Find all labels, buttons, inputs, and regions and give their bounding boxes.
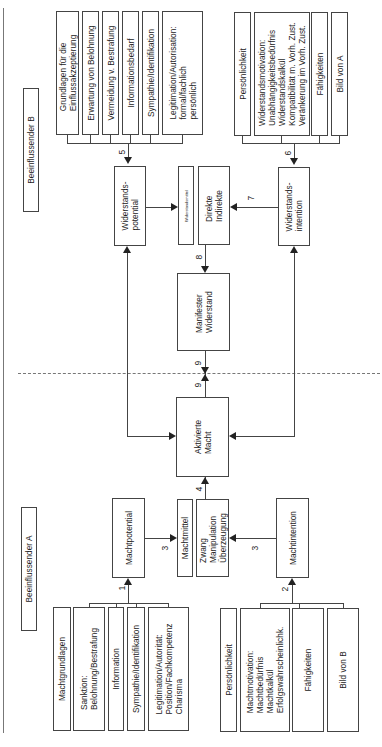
section-label-b-text: Beeinflussender B	[26, 116, 36, 183]
widerstandsmittel-box: Direkte Indirekte	[198, 166, 230, 245]
a-grundlagen-text-0: Machtgrundlagen	[57, 637, 67, 701]
b-grundlagen-box-4: Sympathie/Identifikation	[142, 11, 159, 135]
b-intention-text-3: Bild von A	[335, 56, 345, 93]
connector	[236, 538, 276, 539]
divider-dashed-line	[18, 373, 380, 374]
machtintention-text: Machtintention	[288, 511, 298, 565]
b-intention-box-2: Fähigkeiten	[311, 12, 328, 136]
connector	[110, 135, 111, 143]
connector	[260, 603, 344, 604]
widerstandsmittel-label-box: Widerstandsmittel	[178, 166, 194, 245]
edge-label-4: 4	[194, 484, 204, 494]
widerstandsintention-box: Widerstands- intention	[278, 167, 310, 246]
arrow-down-icon	[124, 157, 132, 164]
b-intention-box-1: Widerstandsmotivation: Unabhängigkeitsbe…	[254, 12, 310, 136]
widerstandsintention-text: Widerstands- intention	[284, 182, 304, 231]
connector	[127, 436, 170, 437]
a-grundlagen-text-1: Sanktion: Belohnung/Bestrafung	[79, 628, 99, 710]
arrow-up-icon	[123, 246, 131, 253]
b-grundlagen-box-0: Grundlagen für die Einflussakzeptierung	[56, 11, 79, 135]
connector	[67, 135, 68, 143]
connector	[319, 136, 320, 143]
a-grundlagen-box-2: Information	[108, 607, 124, 731]
b-intention-text-2: Fähigkeiten	[315, 53, 325, 96]
a-intention-text-0: Persönlichkeit	[224, 644, 234, 696]
arrow-left-icon	[229, 534, 236, 542]
machtpotential-text: Machtpotential	[124, 511, 134, 565]
arrow-right-icon	[170, 534, 177, 542]
edge-label-2: 2	[280, 584, 290, 594]
b-intention-text-1: Widerstandsmotivation: Unabhängigkeitsbe…	[257, 22, 307, 126]
widerstandsmittel-text: Direkte Indirekte	[204, 190, 224, 222]
arrow-down-icon	[201, 266, 209, 273]
b-intention-box-3: Bild von A	[331, 12, 348, 136]
section-label-b: Beeinflussender B	[23, 88, 39, 212]
edge-label-9b: 9	[193, 380, 203, 390]
edge-label-9a: 9	[193, 358, 203, 368]
b-grundlagen-text-4: Sympathie/Identifikation	[146, 29, 156, 117]
connector	[90, 135, 91, 143]
a-intention-box-1: Machtmotivation: Machtbedürfnis Machtkal…	[240, 608, 290, 732]
manifester-widerstand-box: Manifester Widerstand	[177, 273, 230, 351]
widerstandspotential-text: Widerstands- potential	[120, 182, 140, 231]
edge-label-8: 8	[194, 252, 204, 262]
a-grundlagen-box-3: Sympathie/Identifikation	[127, 607, 145, 731]
a-intention-box-3: Bild von B	[327, 608, 359, 732]
a-grundlagen-text-4: Legitimation/Autorität: Position/Fachkom…	[154, 624, 184, 715]
machtmittel-box: Zwang Manipulation Überzeugung	[196, 499, 229, 577]
b-intention-box-0: Persönlichkeit	[234, 12, 251, 136]
connector	[128, 584, 129, 604]
connector	[127, 252, 128, 437]
arrow-left-icon	[229, 432, 236, 440]
connector	[145, 538, 171, 539]
a-intention-box-2: Fähigkeiten	[292, 608, 324, 732]
edge-label-5: 5	[117, 147, 127, 157]
connector	[150, 135, 151, 143]
a-intention-box-0: Persönlichkeit	[220, 608, 237, 732]
a-intention-text-3: Bild von B	[338, 651, 348, 688]
connector	[294, 252, 295, 437]
a-grundlagen-text-3: Sympathie/Identifikation	[131, 625, 141, 713]
connector	[67, 143, 183, 144]
edge-label-3a: 3	[160, 543, 170, 553]
connector	[205, 245, 206, 267]
b-grundlagen-text-0: Grundlagen für die Einflussakzeptierung	[58, 35, 78, 112]
b-grundlagen-text-3: Informationsbedarf	[126, 38, 136, 107]
section-label-a-text: Beeinflussender A	[24, 536, 34, 603]
arrow-up-icon	[290, 246, 298, 253]
b-grundlagen-text-5: Legitimation/Autorisation: formal/fachli…	[168, 26, 198, 119]
a-intention-text-2: Fähigkeiten	[303, 649, 313, 692]
machtmittel-label-text: Machtmittel	[180, 517, 190, 559]
arrow-right-icon	[169, 432, 176, 440]
connector	[146, 207, 172, 208]
arrow-left-icon	[230, 203, 237, 211]
edge-label-7: 7	[246, 193, 256, 203]
aktivierte-macht-box: Aktivierte Macht	[176, 397, 229, 477]
connector	[237, 207, 278, 208]
a-grundlagen-text-2: Information	[111, 648, 121, 690]
aktivierte-macht-text: Aktivierte Macht	[193, 420, 213, 454]
connector	[242, 143, 340, 144]
arrow-down-icon	[201, 367, 209, 374]
widerstandsmittel-label-text: Widerstandsmittel	[184, 190, 189, 222]
b-grundlagen-box-5: Legitimation/Autorisation: formal/fachli…	[162, 11, 203, 135]
edge-label-3b: 3	[250, 543, 260, 553]
connector	[130, 135, 131, 143]
connector	[236, 436, 295, 437]
arrow-down-icon	[290, 158, 298, 165]
machtmittel-text: Zwang Manipulation Überzeugung	[198, 513, 228, 563]
widerstandspotential-box: Widerstands- potential	[114, 166, 146, 246]
b-grundlagen-box-2: Vermeidung v. Bestrafung	[102, 11, 119, 135]
arrow-up-icon	[201, 477, 209, 484]
machtpotential-box: Machtpotential	[112, 498, 145, 578]
a-grundlagen-box-0: Machtgrundlagen	[53, 607, 71, 731]
connector	[292, 584, 293, 604]
b-grundlagen-box-3: Informationsbedarf	[122, 11, 139, 135]
b-grundlagen-box-1: Erwartung von Belohnung	[82, 11, 99, 135]
machtintention-box: Machtintention	[276, 498, 309, 578]
arrow-right-icon	[171, 203, 178, 211]
a-grundlagen-box-1: Sanktion: Belohnung/Bestrafung	[73, 607, 105, 731]
connector	[89, 603, 169, 604]
b-grundlagen-text-1: Erwartung von Belohnung	[86, 25, 96, 120]
section-label-a: Beeinflussender A	[21, 507, 37, 631]
